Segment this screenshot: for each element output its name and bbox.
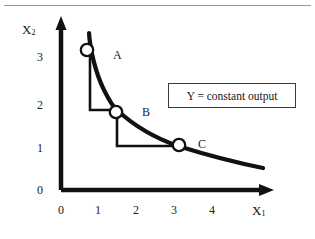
y-axis-label: X2	[22, 22, 35, 38]
x-tick-3: 3	[166, 203, 182, 218]
plot-canvas	[0, 0, 315, 239]
y-axis	[56, 16, 67, 190]
x-tick-1: 1	[90, 203, 106, 218]
y-tick-3: 3	[32, 50, 48, 65]
x-axis-label: X1	[252, 203, 265, 219]
point-marker-a	[81, 44, 93, 56]
y-tick-0: 0	[32, 183, 48, 198]
point-label-a: A	[113, 48, 122, 63]
x-axis	[61, 184, 274, 196]
point-marker-b	[110, 106, 122, 118]
x-tick-0: 0	[53, 203, 69, 218]
x-tick-4: 4	[204, 203, 220, 218]
x-tick-2: 2	[128, 203, 144, 218]
isoquant-figure: X2 X1 3 2 1 0 0 1 2 3 4 A B C Y = consta…	[0, 0, 315, 239]
legend-label: Y = constant output	[187, 90, 278, 102]
point-label-b: B	[142, 105, 150, 120]
y-tick-2: 2	[32, 98, 48, 113]
legend-box: Y = constant output	[168, 83, 296, 108]
point-label-c: C	[198, 137, 206, 152]
y-tick-1: 1	[32, 141, 48, 156]
point-marker-c	[173, 139, 185, 151]
